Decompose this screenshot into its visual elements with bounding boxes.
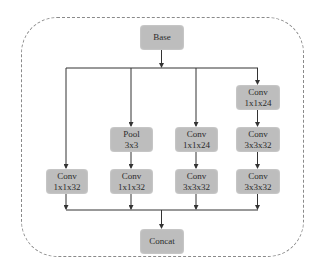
node-size: 1x1x32 [118,182,145,193]
node-op: Pool [123,129,140,140]
node-size: 3x3x32 [245,140,272,151]
branch3-conv-3x3x32: Conv 3x3x32 [175,169,218,194]
concat-node: Concat [140,229,184,254]
node-op: Conv [248,171,268,182]
node-size: 3x3x32 [183,182,210,193]
node-size: 1x1x24 [183,140,210,151]
node-size: 1x1x32 [54,182,81,193]
node-op: Conv [187,171,207,182]
node-op: Conv [57,171,77,182]
concat-label: Concat [149,236,175,247]
branch4-conv-3x3x32-a: Conv 3x3x32 [236,127,280,152]
branch3-conv-1x1x24: Conv 1x1x24 [175,127,218,152]
node-size: 3x3 [125,140,139,151]
base-label: Base [153,32,171,43]
node-op: Conv [248,129,268,140]
branch2-pool-3x3: Pool 3x3 [110,127,153,152]
branch4-conv-1x1x24: Conv 1x1x24 [236,85,280,110]
node-op: Conv [122,171,142,182]
branch2-conv-1x1x32: Conv 1x1x32 [110,169,153,194]
branch4-conv-3x3x32-b: Conv 3x3x32 [236,169,280,194]
base-node: Base [140,25,184,50]
node-op: Conv [187,129,207,140]
node-size: 1x1x24 [245,98,272,109]
node-op: Conv [248,87,268,98]
node-size: 3x3x32 [245,182,272,193]
branch1-conv-1x1x32: Conv 1x1x32 [46,169,88,194]
